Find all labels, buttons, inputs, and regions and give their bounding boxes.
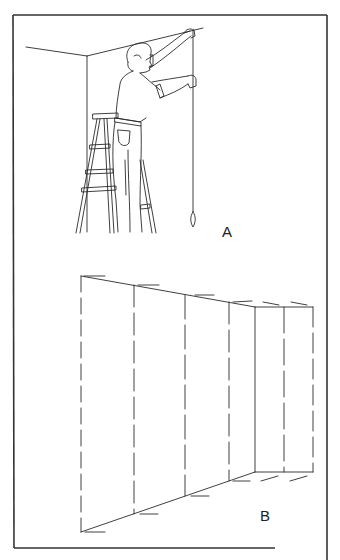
figure-frame (13, 15, 327, 560)
plumb-bob-icon (191, 212, 196, 227)
wall-outline (81, 276, 313, 532)
top-tick-marks (84, 276, 307, 305)
plumb-guidelines (81, 276, 313, 532)
panel-label-a: A (222, 224, 232, 239)
illustration-figure: A B (0, 0, 340, 560)
room-corner-lines (26, 28, 203, 232)
panel-b (81, 276, 313, 532)
panel-a (26, 28, 203, 233)
man-figure (113, 29, 196, 232)
plumb-line (191, 31, 196, 227)
bottom-tick-marks (85, 476, 307, 532)
panel-label-b: B (260, 508, 270, 523)
line-drawing (0, 0, 340, 560)
stepladder (76, 113, 156, 233)
